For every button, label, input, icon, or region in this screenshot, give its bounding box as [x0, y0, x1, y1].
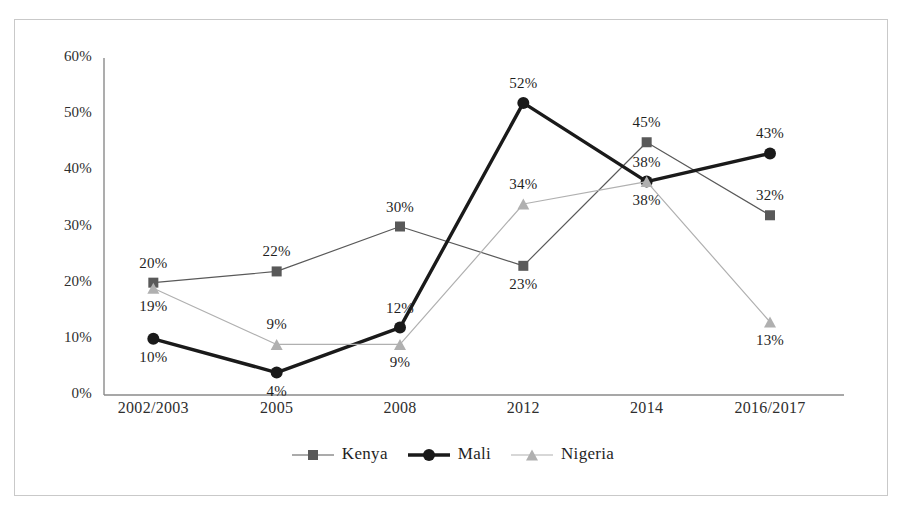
data-point-marker [642, 137, 652, 147]
data-point-label: 9% [390, 354, 410, 371]
y-axis-tick-label: 60% [40, 48, 92, 65]
data-point-label: 19% [139, 298, 167, 315]
series-mali [147, 97, 776, 379]
data-point-label: 9% [266, 316, 286, 333]
data-point-marker [147, 333, 159, 345]
data-point-marker [765, 210, 775, 220]
data-point-label: 22% [263, 243, 291, 260]
y-axis-tick-label: 30% [40, 217, 92, 234]
axis-lines [104, 58, 844, 395]
data-point-label: 30% [386, 199, 414, 216]
x-axis-tick-label: 2012 [462, 399, 585, 417]
data-point-label: 32% [756, 187, 784, 204]
legend-label: Mali [458, 444, 491, 464]
series-line [153, 103, 770, 373]
data-point-marker [394, 322, 406, 334]
data-point-marker [517, 199, 529, 210]
legend-item-nigeria[interactable]: Nigeria [509, 444, 614, 464]
chart-legend: KenyaMaliNigeria [0, 444, 904, 464]
triangle-marker [509, 446, 555, 462]
data-point-marker [272, 266, 282, 276]
data-point-label: 12% [386, 300, 414, 317]
legend-label: Kenya [342, 444, 388, 464]
square-marker [290, 446, 336, 462]
series-line [153, 182, 770, 345]
data-point-label: 10% [139, 349, 167, 366]
y-axis-tick-label: 10% [40, 329, 92, 346]
data-point-marker [764, 147, 776, 159]
data-point-marker [517, 97, 529, 109]
data-point-marker [271, 367, 283, 379]
x-axis-tick-label: 2005 [215, 399, 338, 417]
series-nigeria [147, 176, 776, 350]
legend-item-kenya[interactable]: Kenya [290, 444, 388, 464]
legend-label: Nigeria [561, 444, 614, 464]
data-point-marker [518, 261, 528, 271]
data-point-label: 38% [633, 192, 661, 209]
data-point-marker [764, 316, 776, 327]
x-axis-tick-label: 2014 [585, 399, 708, 417]
x-axis-tick-label: 2008 [338, 399, 461, 417]
x-axis-tick-label: 2002/2003 [92, 399, 215, 417]
y-axis-tick-label: 40% [40, 160, 92, 177]
y-axis-tick-label: 20% [40, 273, 92, 290]
data-point-label: 23% [509, 276, 537, 293]
data-point-label: 52% [509, 75, 537, 92]
data-point-label: 13% [756, 332, 784, 349]
data-point-label: 4% [266, 383, 286, 400]
circle-marker [406, 446, 452, 462]
chart-figure: 0%10%20%30%40%50%60% 2002/20032005200820… [0, 0, 904, 522]
x-axis-tick-label: 2016/2017 [708, 399, 831, 417]
data-point-marker [395, 222, 405, 232]
data-point-label: 20% [139, 255, 167, 272]
legend-item-mali[interactable]: Mali [406, 444, 491, 464]
series-layer [147, 97, 776, 379]
y-axis-tick-label: 0% [40, 385, 92, 402]
y-axis-tick-label: 50% [40, 104, 92, 121]
data-point-label: 38% [633, 154, 661, 171]
data-point-label: 45% [633, 114, 661, 131]
data-point-label: 34% [509, 176, 537, 193]
data-point-label: 43% [756, 125, 784, 142]
